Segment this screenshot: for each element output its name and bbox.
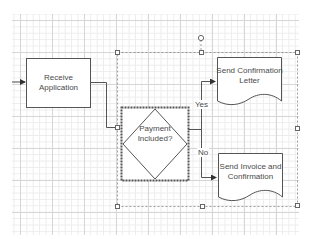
edge-label-no: No bbox=[197, 148, 209, 157]
edge-receive-to-decision[interactable] bbox=[91, 83, 118, 128]
label-line: Send Confirmation bbox=[215, 66, 284, 76]
resize-handle-top-left[interactable] bbox=[115, 50, 120, 55]
label-line: Receive bbox=[26, 73, 91, 83]
diagram-svg bbox=[0, 0, 310, 239]
diagram-canvas[interactable]: Receive Application Payment Included? Se… bbox=[0, 0, 310, 239]
receive-application-label: Receive Application bbox=[26, 73, 91, 93]
payment-included-label: Payment Included? bbox=[122, 124, 188, 144]
label-line: Included? bbox=[122, 134, 188, 144]
send-invoice-confirmation-label: Send Invoice and Confirmation bbox=[216, 162, 285, 182]
send-confirmation-letter-label: Send Confirmation Letter bbox=[215, 66, 284, 86]
label-line: Letter bbox=[215, 76, 284, 86]
node-payment-included[interactable] bbox=[122, 108, 189, 181]
resize-handle-top-center[interactable] bbox=[199, 50, 204, 55]
rotate-handle[interactable] bbox=[198, 35, 203, 40]
resize-handle-middle-left[interactable] bbox=[115, 125, 120, 130]
label-line: Confirmation bbox=[216, 172, 285, 182]
label-line: Send Invoice and bbox=[216, 162, 285, 172]
resize-handle-middle-right[interactable] bbox=[295, 126, 300, 131]
resize-handle-bottom-center[interactable] bbox=[200, 204, 205, 209]
edge-label-yes: Yes bbox=[194, 100, 209, 109]
resize-handle-bottom-left[interactable] bbox=[115, 204, 120, 209]
resize-handle-top-right[interactable] bbox=[295, 50, 300, 55]
label-line: Application bbox=[26, 83, 91, 93]
resize-handle-bottom-right[interactable] bbox=[295, 203, 300, 208]
label-line: Payment bbox=[122, 124, 188, 134]
